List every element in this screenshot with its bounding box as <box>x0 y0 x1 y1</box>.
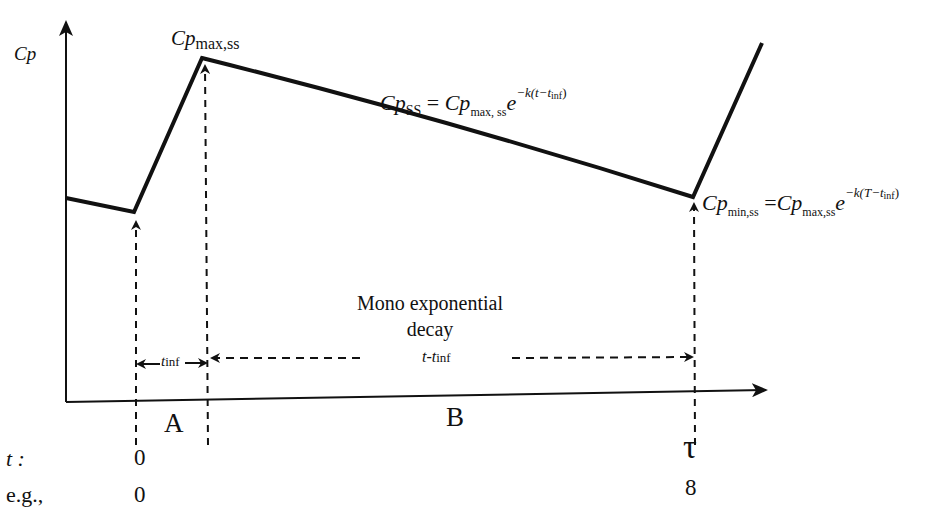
trough-equation: Cpmin,ss =Cpmax,sse−k(T−tinf) <box>702 186 899 218</box>
eg-zero-value: 0 <box>134 483 146 506</box>
phase-a-label: A <box>164 410 184 437</box>
y-axis-label: Cp <box>14 44 36 63</box>
t-row-label: t : <box>6 448 25 470</box>
eg-tau-value: 8 <box>685 476 697 499</box>
decay-label: Mono exponential decay <box>320 290 540 342</box>
phase-b-label: B <box>446 404 464 431</box>
peak-label: Cpmax,ss <box>171 28 240 52</box>
t-minus-tinf-label: t-tinf <box>422 349 451 365</box>
dashed-line-tau <box>694 204 695 445</box>
concentration-curve <box>66 43 762 212</box>
steady-state-equation: CpSS = Cpmax, sse−k(t−tinf) <box>380 86 566 118</box>
pk-diagram-canvas <box>0 0 951 521</box>
eg-row-label: e.g., <box>6 484 43 506</box>
x-axis <box>66 390 766 402</box>
tinf-label: tinf <box>161 354 180 369</box>
t-minus-tinf-arrow-right <box>512 357 692 358</box>
t-tau-tick: τ <box>683 430 697 464</box>
t-zero-tick: 0 <box>134 446 146 469</box>
dashed-line-tinf <box>205 66 208 445</box>
